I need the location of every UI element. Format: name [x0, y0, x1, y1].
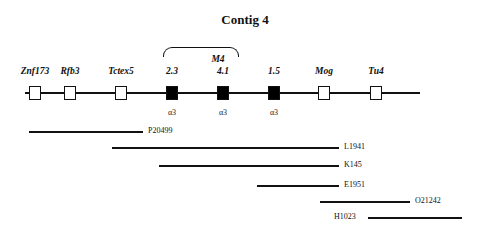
clone-line	[257, 185, 339, 187]
diagram-title: Contig 4	[0, 12, 490, 28]
clone-line	[368, 217, 462, 219]
gene-label: Tu4	[368, 66, 383, 76]
gene-label: Tctex5	[108, 66, 134, 76]
marker-sublabel: α3	[270, 108, 278, 117]
clone-label: O21242	[415, 196, 441, 205]
open-marker-box	[115, 86, 127, 100]
gene-label: 1.5	[268, 66, 280, 76]
contig-diagram: Contig 4 M4 Znf173Rfb3Tctex52.3α34.1α31.…	[0, 0, 490, 236]
clone-line	[159, 165, 339, 167]
clone-label: L1941	[344, 142, 365, 151]
clone-label: H1023	[334, 212, 356, 221]
filled-marker-box	[268, 86, 280, 100]
filled-marker-box	[217, 86, 229, 100]
gene-label: Rfb3	[61, 66, 80, 76]
clone-label: E1951	[344, 180, 365, 189]
gene-label: Mog	[315, 66, 333, 76]
filled-marker-box	[166, 86, 178, 100]
clone-label: K145	[344, 160, 362, 169]
open-marker-box	[370, 86, 382, 100]
clone-line	[320, 201, 410, 203]
open-marker-box	[64, 86, 76, 100]
gene-label: Znf173	[21, 66, 50, 76]
clone-label: P20499	[148, 126, 172, 135]
clone-line	[112, 147, 339, 149]
marker-sublabel: α3	[168, 108, 176, 117]
open-marker-box	[318, 86, 330, 100]
m4-bracket	[163, 47, 239, 57]
marker-sublabel: α3	[219, 108, 227, 117]
clone-line	[29, 131, 143, 133]
gene-label: 4.1	[217, 66, 229, 76]
open-marker-box	[29, 86, 41, 100]
m4-label: M4	[211, 54, 224, 64]
gene-label: 2.3	[166, 66, 178, 76]
